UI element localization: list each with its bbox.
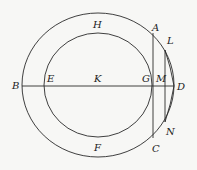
label-N: N <box>165 126 176 137</box>
arc-LD <box>165 50 174 86</box>
geometry-diagram: A B C D E F G H K L M N <box>0 0 197 170</box>
label-D: D <box>176 81 185 92</box>
label-B: B <box>11 80 19 91</box>
label-C: C <box>152 143 160 154</box>
label-E: E <box>46 73 55 84</box>
outer-circle <box>22 13 174 157</box>
label-M: M <box>155 73 167 84</box>
label-K: K <box>93 73 102 84</box>
label-L: L <box>166 35 174 46</box>
label-A: A <box>151 22 159 33</box>
label-F: F <box>93 142 102 153</box>
arc-DN <box>165 86 174 122</box>
label-G: G <box>142 73 150 84</box>
label-H: H <box>92 19 102 30</box>
inner-circle <box>44 33 152 137</box>
